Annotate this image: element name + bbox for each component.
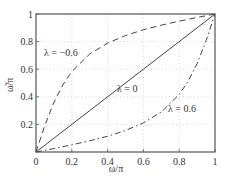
annotation-lambda-neg: λ = −0.6 <box>44 47 78 58</box>
x-tick-label: 0.6 <box>137 156 150 167</box>
x-tick-label: 0.2 <box>66 156 79 167</box>
x-tick-label: 0 <box>34 156 39 167</box>
x-axis-label: ω/π <box>109 163 123 174</box>
y-tick-label: 1 <box>28 9 33 20</box>
annotation-lambda-pos: λ = 0.6 <box>168 103 196 114</box>
x-tick-label: 1 <box>213 156 218 167</box>
y-tick-label: 0.6 <box>21 64 34 75</box>
annotation-lambda-zero: λ = 0 <box>117 83 138 94</box>
y-tick-label: 0.8 <box>21 36 34 47</box>
warping-chart: 00.20.40.60.810.20.40.60.81 λ = −0.6 λ =… <box>0 0 228 183</box>
y-tick-label: 0.4 <box>21 91 34 102</box>
x-tick-label: 0.8 <box>173 156 186 167</box>
y-tick-label: 0.2 <box>21 119 34 130</box>
y-axis-label: ω̃/π <box>4 78 15 92</box>
